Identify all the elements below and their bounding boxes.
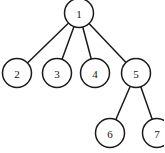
tree-edge-1-3	[62, 27, 74, 60]
tree-node-5[interactable]: 5	[122, 59, 151, 88]
tree-diagram-canvas: 1234567	[0, 0, 164, 153]
tree-node-1[interactable]: 1	[65, 0, 94, 28]
tree-edge-5-7	[141, 87, 152, 120]
tree-diagram: 1234567	[0, 0, 164, 153]
tree-edge-5-6	[116, 86, 130, 119]
node-label-6: 6	[107, 128, 113, 140]
node-label-7: 7	[154, 128, 160, 140]
node-label-1: 1	[76, 8, 82, 20]
tree-node-4[interactable]: 4	[81, 59, 110, 88]
tree-node-3[interactable]: 3	[43, 59, 72, 88]
node-label-4: 4	[92, 68, 98, 80]
tree-node-6[interactable]: 6	[96, 119, 125, 148]
node-label-3: 3	[54, 68, 60, 80]
tree-node-7[interactable]: 7	[143, 119, 165, 148]
tree-edge-1-5	[89, 24, 126, 63]
node-label-5: 5	[133, 68, 139, 80]
node-circle-7	[143, 119, 165, 148]
node-layer: 1234567	[3, 0, 165, 148]
tree-node-2[interactable]: 2	[3, 59, 32, 88]
node-label-2: 2	[14, 68, 20, 80]
tree-edge-1-4	[83, 27, 92, 59]
